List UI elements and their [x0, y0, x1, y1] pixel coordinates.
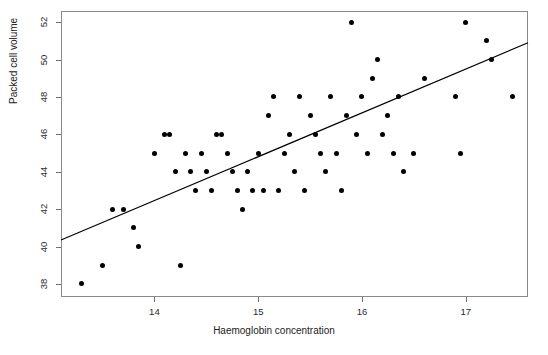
scatter-point [422, 76, 427, 81]
x-tick-mark [258, 297, 259, 302]
scatter-point [121, 207, 126, 212]
y-tick-label: 46 [38, 124, 50, 144]
scatter-point [152, 151, 157, 156]
scatter-point [235, 188, 240, 193]
y-tick-mark [56, 60, 61, 61]
scatter-point [256, 151, 261, 156]
scatter-point [339, 188, 344, 193]
y-tick-label: 50 [38, 50, 50, 70]
scatter-point [173, 169, 178, 174]
scatter-point [463, 20, 468, 25]
y-tick-mark [56, 97, 61, 98]
scatter-point [458, 151, 463, 156]
scatter-point [183, 151, 188, 156]
scatter-point [261, 188, 266, 193]
x-tick-mark [466, 297, 467, 302]
scatter-point [370, 76, 375, 81]
scatter-plot-figure: 384042444648505214151617 Packed cell vol… [0, 0, 548, 355]
x-tick-label: 14 [142, 306, 166, 318]
scatter-point [100, 263, 105, 268]
y-tick-mark [56, 134, 61, 135]
y-tick-mark [56, 22, 61, 23]
scatter-point [230, 169, 235, 174]
scatter-point [411, 151, 416, 156]
y-tick-mark [56, 247, 61, 248]
y-tick-mark [56, 284, 61, 285]
scatter-point [334, 151, 339, 156]
x-tick-label: 15 [246, 306, 270, 318]
scatter-point [199, 151, 204, 156]
scatter-point [287, 132, 292, 137]
scatter-point [225, 151, 230, 156]
y-tick-label: 42 [38, 199, 50, 219]
scatter-point [391, 151, 396, 156]
x-tick-label: 17 [454, 306, 478, 318]
scatter-point [240, 207, 245, 212]
y-axis-label: Packed cell volume [8, 0, 19, 104]
y-tick-mark [56, 209, 61, 210]
scatter-point [349, 20, 354, 25]
x-tick-mark [362, 297, 363, 302]
x-axis-label: Haemoglobin concentration [0, 325, 548, 336]
scatter-point [209, 188, 214, 193]
y-tick-mark [56, 172, 61, 173]
y-tick-label: 52 [38, 12, 50, 32]
scatter-point [178, 263, 183, 268]
scatter-point [282, 151, 287, 156]
y-tick-label: 44 [38, 162, 50, 182]
scatter-point [318, 151, 323, 156]
y-tick-label: 48 [38, 87, 50, 107]
y-tick-label: 38 [38, 274, 50, 294]
x-tick-mark [154, 297, 155, 302]
scatter-point [308, 113, 313, 118]
scatter-point [365, 151, 370, 156]
y-tick-label: 40 [38, 237, 50, 257]
scatter-point [313, 132, 318, 137]
x-tick-label: 16 [350, 306, 374, 318]
